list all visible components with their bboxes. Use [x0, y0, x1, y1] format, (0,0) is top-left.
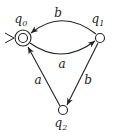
- edge-label-a-middle: a: [58, 57, 65, 71]
- state-label-q2: q2: [55, 116, 68, 132]
- edge-label-a-left: a: [34, 73, 41, 87]
- edge-q0-q1-a: a: [30, 41, 95, 71]
- state-label-q0: q0: [15, 12, 28, 28]
- state-q0: q0: [15, 12, 31, 46]
- state-label-q1: q1: [92, 12, 105, 28]
- initial-state-arrow: [5, 33, 14, 43]
- state-q1: q1: [92, 12, 105, 43]
- edge-label-b-top: b: [54, 6, 62, 20]
- edge-label-b-right: b: [84, 73, 92, 87]
- automaton-diagram: b a a b q0 q1 q2: [0, 0, 114, 137]
- state-q2: q2: [55, 106, 68, 133]
- edge-q2-q0-a: a: [28, 47, 60, 106]
- edge-q1-q0-b: b: [31, 6, 96, 34]
